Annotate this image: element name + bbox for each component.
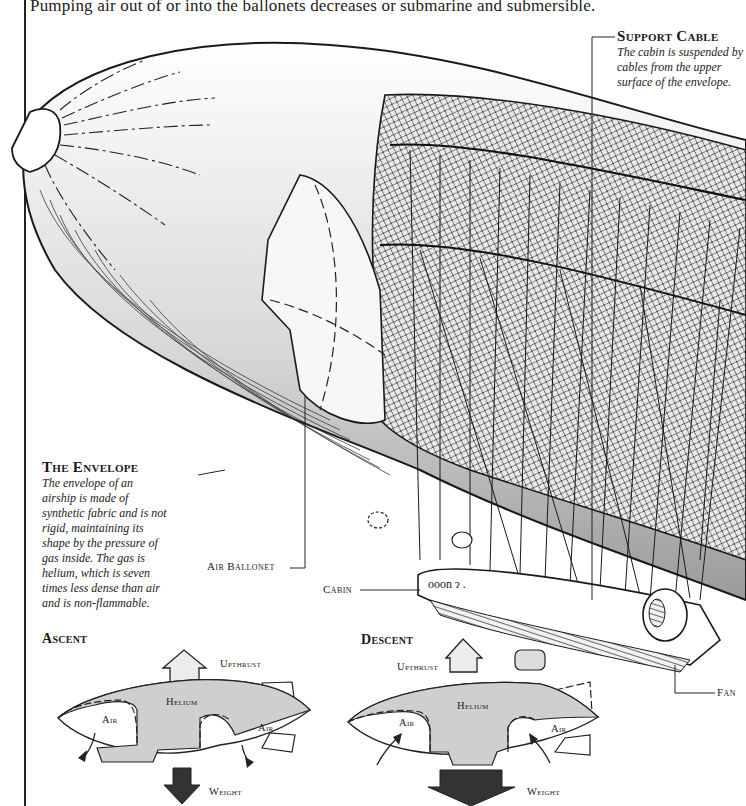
envelope-line: airship is made of [42, 491, 202, 506]
svg-text:ooon ɂ .: ooon ɂ . [428, 577, 466, 591]
envelope-line: shape by the pressure of [42, 536, 202, 551]
support-cable-description: The cabin is suspended by cables from th… [617, 45, 746, 90]
descent-upthrust-label: Upthrust [397, 661, 438, 672]
fan-label: Fan [717, 686, 736, 698]
envelope-title: The Envelope [42, 459, 138, 476]
descent-helium-label: Helium [457, 700, 489, 711]
cabin-label: Cabin [323, 583, 352, 595]
descent-weight-label: Weight [527, 786, 560, 797]
support-cable-line: cables from the upper [617, 60, 746, 75]
envelope-line: and is non-flammable. [42, 596, 202, 611]
air-ballonet-label: Air Ballonet [207, 560, 275, 572]
envelope-line: synthetic fabric and is not [42, 506, 202, 521]
ascent-title: Ascent [42, 631, 87, 647]
airship-illustration: ooon ɂ . [0, 0, 746, 806]
envelope-line: The envelope of an [42, 476, 202, 491]
envelope-line: gas inside. The gas is [42, 551, 202, 566]
envelope-description: The envelope of an airship is made of sy… [42, 476, 202, 611]
descent-air-left-label: Air [399, 717, 414, 728]
support-cable-line: surface of the envelope. [617, 75, 746, 90]
ascent-helium-label: Helium [166, 696, 198, 707]
descent-air-right-label: Air [551, 723, 566, 734]
ascent-weight-label: Weight [209, 786, 242, 797]
envelope-line: rigid, maintaining its [42, 521, 202, 536]
envelope-line: helium, which is seven [42, 566, 202, 581]
support-cable-title: Support Cable [617, 28, 719, 45]
support-cable-line: The cabin is suspended by [617, 45, 746, 60]
ascent-air-left-label: Air [102, 714, 117, 725]
envelope-line: times less dense than air [42, 581, 202, 596]
descent-title: Descent [361, 632, 413, 648]
ascent-upthrust-label: Upthrust [220, 658, 261, 669]
ascent-air-right-label: Air [258, 722, 273, 733]
